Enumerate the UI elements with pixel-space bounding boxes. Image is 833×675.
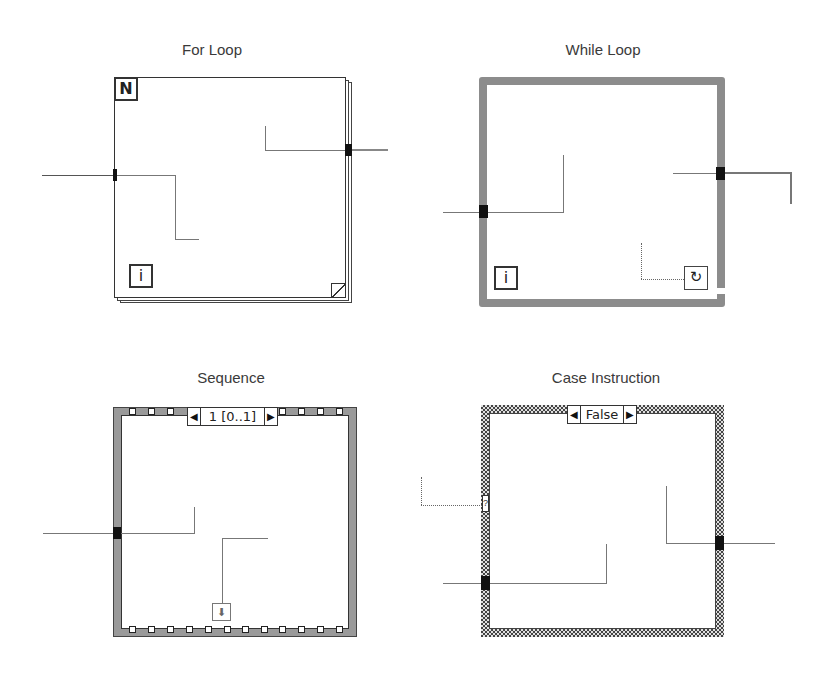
input-wire[interactable] — [443, 583, 481, 584]
frame-selector-label[interactable]: 1 [0..1] — [200, 408, 265, 425]
for-loop-title: For Loop — [92, 41, 332, 58]
input-wire[interactable] — [43, 533, 113, 534]
next-frame-arrow-icon[interactable]: ▶ — [265, 408, 277, 425]
inner-wire[interactable] — [488, 212, 563, 213]
input-wire[interactable] — [443, 212, 480, 213]
film-hole — [242, 626, 249, 633]
film-hole — [148, 408, 155, 415]
boolean-wire[interactable] — [641, 243, 642, 279]
inner-wire[interactable] — [606, 544, 607, 584]
film-hole — [167, 626, 174, 633]
inner-wire[interactable] — [673, 173, 717, 174]
output-wire[interactable] — [352, 149, 388, 151]
loop-arrow-icon: ↻ — [690, 268, 703, 286]
selector-wire[interactable] — [421, 505, 482, 506]
output-tunnel[interactable] — [345, 144, 352, 156]
inner-wire[interactable] — [175, 239, 199, 240]
film-hole — [298, 408, 305, 415]
film-hole — [129, 626, 136, 633]
input-tunnel[interactable] — [479, 205, 488, 218]
next-case-arrow-icon[interactable]: ▶ — [624, 406, 636, 423]
output-wire[interactable] — [790, 172, 792, 204]
iteration-terminal[interactable]: i — [494, 266, 518, 290]
inner-wire[interactable] — [265, 150, 345, 151]
inner-wire[interactable] — [194, 507, 195, 534]
inner-wire[interactable] — [222, 538, 268, 539]
film-hole — [205, 626, 212, 633]
inner-wire[interactable] — [265, 126, 266, 150]
input-tunnel[interactable] — [113, 527, 121, 539]
film-hole — [129, 408, 136, 415]
film-hole — [317, 408, 324, 415]
film-hole — [336, 408, 343, 415]
inner-wire[interactable] — [117, 175, 175, 176]
film-hole — [186, 626, 193, 633]
prev-case-arrow-icon[interactable]: ◀ — [568, 406, 580, 423]
case-title: Case Instruction — [486, 369, 726, 386]
while-loop-corner-gap — [716, 288, 726, 294]
sequence-frame — [121, 415, 349, 629]
inner-wire[interactable] — [121, 533, 194, 534]
film-hole — [279, 626, 286, 633]
case-frame — [489, 413, 716, 629]
page-curl-icon — [331, 283, 345, 297]
output-tunnel[interactable] — [716, 167, 725, 180]
input-tunnel[interactable] — [481, 576, 490, 590]
inner-wire[interactable] — [490, 583, 607, 584]
inner-wire[interactable] — [666, 543, 716, 544]
output-wire[interactable] — [724, 543, 775, 544]
film-hole — [298, 626, 305, 633]
case-selector-label[interactable]: False — [580, 406, 624, 423]
film-hole — [261, 626, 268, 633]
boolean-wire[interactable] — [641, 279, 684, 280]
inner-wire[interactable] — [666, 486, 667, 543]
case-selector-terminal[interactable]: ? — [482, 495, 489, 512]
prev-frame-arrow-icon[interactable]: ◀ — [188, 408, 200, 425]
output-tunnel[interactable] — [715, 536, 724, 550]
film-hole — [336, 626, 343, 633]
selector-wire[interactable] — [421, 477, 422, 505]
film-hole — [167, 408, 174, 415]
down-arrow-icon: ⬇ — [217, 606, 226, 618]
film-hole — [148, 626, 155, 633]
inner-wire[interactable] — [563, 155, 564, 213]
frame-selector[interactable]: ◀ 1 [0..1] ▶ — [187, 407, 278, 426]
input-wire[interactable] — [42, 175, 115, 176]
inner-wire[interactable] — [222, 538, 223, 603]
case-selector[interactable]: ◀ False ▶ — [567, 405, 637, 424]
film-hole — [279, 408, 286, 415]
while-loop-title: While Loop — [483, 41, 723, 58]
iteration-terminal[interactable]: i — [129, 264, 153, 288]
film-hole — [224, 626, 231, 633]
sequence-local-terminal[interactable]: ⬇ — [212, 603, 231, 621]
loop-condition-terminal[interactable]: ↻ — [684, 266, 708, 290]
count-terminal[interactable]: N — [114, 77, 138, 101]
sequence-title: Sequence — [111, 369, 351, 386]
output-wire[interactable] — [725, 172, 792, 174]
film-hole — [317, 626, 324, 633]
inner-wire[interactable] — [175, 175, 176, 240]
